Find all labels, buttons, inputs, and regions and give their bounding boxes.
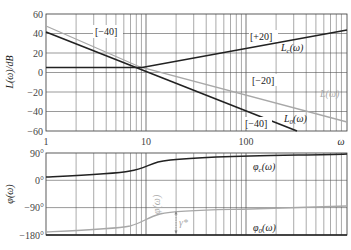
xtick-100: 100: [239, 136, 254, 147]
mag-annotations: [−40] [+20] [−20] [−40] Lc(ω) L(ω) L0(ω): [93, 25, 340, 129]
label-phi0: φ0(ω): [253, 222, 276, 235]
bode-plot: 60 40 20 0 −20 −40 −60 1 10 100 ω 90° 0°…: [0, 0, 351, 250]
mag-y-ticks: 60 40 20 0 −20 −40 −60: [27, 9, 43, 137]
tick-20: 20: [33, 48, 43, 59]
curve-phic: [46, 154, 347, 177]
phase-y-axis-label: φ(ω): [4, 184, 16, 204]
gamma-arrowhead-down: [175, 231, 178, 235]
xtick-10: 10: [141, 136, 151, 147]
tick-m60: −60: [27, 126, 43, 137]
slope-label-p20: [+20]: [250, 31, 272, 42]
phase-grid: [46, 153, 347, 235]
tick-0: 0: [38, 67, 43, 78]
slope-label-m40-bottom: [−40]: [245, 118, 267, 129]
tick-0deg: 0°: [35, 175, 44, 186]
tick-m20: −20: [27, 87, 43, 98]
phase-y-ticks: 90° 0° −90° −180°: [19, 148, 44, 241]
mag-y-axis-label: L(ω)/dB: [4, 55, 16, 89]
label-phic: φc(ω): [253, 161, 276, 174]
curve-phi: [46, 206, 347, 232]
label-L0: L0(ω): [283, 113, 307, 126]
phase-curves: [46, 154, 347, 235]
label-L: L(ω): [319, 88, 340, 100]
tick-m180deg: −180°: [19, 230, 44, 241]
phase-annotations: φc(ω) φ(ω) γ* φ0(ω): [151, 161, 276, 235]
slope-label-m40-top: [−40]: [95, 26, 117, 37]
curve-L: [46, 26, 347, 122]
tick-m90deg: −90°: [24, 202, 44, 213]
tick-60: 60: [33, 9, 43, 20]
tick-90deg: 90°: [30, 148, 44, 159]
xtick-1: 1: [44, 136, 49, 147]
x-axis-label: ω: [337, 136, 344, 147]
x-ticks: 1 10 100 ω: [44, 136, 345, 147]
tick-m40: −40: [27, 106, 43, 117]
label-gamma: γ*: [179, 217, 188, 228]
label-phi: φ(ω): [151, 194, 163, 214]
tick-40: 40: [33, 28, 43, 39]
slope-label-m20: [−20]: [252, 75, 274, 86]
